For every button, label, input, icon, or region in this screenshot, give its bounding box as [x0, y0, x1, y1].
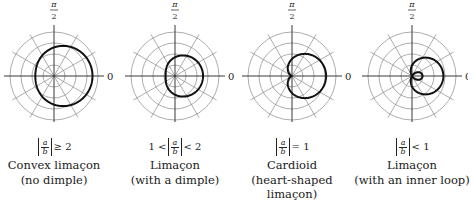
fraction-denominator: b: [41, 148, 48, 156]
condition-op: ≥ 2: [53, 139, 73, 155]
polar-plot-inner-loop: 0π2: [362, 0, 468, 122]
abs-bar-left: [396, 138, 397, 156]
panel-subtitle: (no dimple): [0, 173, 119, 187]
axis-label-zero: 0: [345, 71, 351, 82]
abs-bar-right: [181, 138, 182, 156]
polar-axes: [125, 25, 225, 122]
condition-op: < 1: [411, 139, 431, 155]
axis-label-pi-numerator: π: [408, 0, 415, 9]
panel-subtitle: (heart-shaped limaçon): [227, 173, 357, 201]
axis-label-pi-numerator: π: [50, 0, 57, 9]
panel-title: Limaçon: [110, 158, 240, 172]
condition-inner-loop: ab< 1: [347, 138, 474, 156]
condition-cardioid: ab= 1: [227, 138, 357, 156]
fraction-denominator: b: [399, 148, 406, 156]
axis-label-pi-numerator: π: [171, 0, 178, 9]
panel-title: Cardioid: [227, 158, 357, 172]
polar-axes: [4, 25, 104, 122]
condition-prefix: 1 <: [148, 139, 168, 155]
abs-bar-right: [289, 138, 290, 156]
abs-bar-left: [276, 138, 277, 156]
condition-dimple: 1 <ab< 2: [110, 138, 240, 156]
axis-label-zero: 0: [465, 71, 468, 82]
fraction-a-over-b: ab: [278, 139, 287, 156]
fraction-a-over-b: ab: [40, 139, 49, 156]
axis-label-pi-denominator: 2: [172, 12, 177, 21]
fraction-a-over-b: ab: [170, 139, 179, 156]
panel-subtitle: (with a dimple): [110, 173, 240, 187]
abs-bar-right: [51, 138, 52, 156]
abs-bar-right: [409, 138, 410, 156]
polar-plot-convex: 0π2: [4, 0, 113, 122]
axis-label-pi-denominator: 2: [409, 12, 414, 21]
fraction-denominator: b: [171, 148, 178, 156]
abs-bar-left: [168, 138, 169, 156]
axis-label-pi-denominator: 2: [289, 12, 294, 21]
panel-title: Convex limaçon: [0, 158, 119, 172]
polar-plot-dimple: 0π2: [125, 0, 234, 122]
panel-title: Limaçon: [347, 158, 474, 172]
axis-label-zero: 0: [107, 71, 113, 82]
fraction-denominator: b: [279, 148, 286, 156]
condition-op: = 1: [291, 139, 311, 155]
panel-subtitle: (with an inner loop): [347, 173, 474, 187]
axis-label-pi-numerator: π: [288, 0, 295, 9]
axis-label-zero: 0: [228, 71, 234, 82]
condition-convex: ab≥ 2: [0, 138, 119, 156]
condition-op: < 2: [183, 139, 203, 155]
polar-axes: [242, 25, 342, 122]
axis-label-pi-denominator: 2: [51, 12, 56, 21]
abs-bar-left: [38, 138, 39, 156]
polar-plot-cardioid: 0π2: [242, 0, 351, 122]
fraction-a-over-b: ab: [398, 139, 407, 156]
